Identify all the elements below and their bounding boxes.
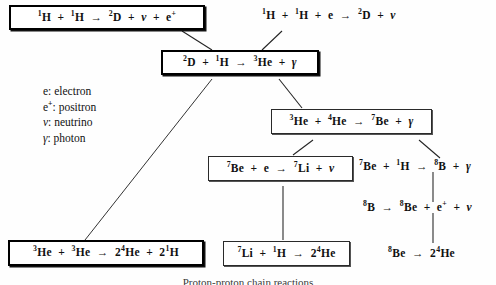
equation-text-pp1: 1H + 1H → 2D + ν + e+ [38, 12, 177, 24]
equation-b8-decay: 8B → 8Be + e+ + ν [363, 202, 472, 214]
figure-canvas: 1H + 1H → 2D + ν + e+ 1H + 1H + e → 2D +… [0, 0, 496, 285]
edge-pep-to-dp [262, 31, 282, 50]
equation-box-he3-he3: 3He + 3He → 24He + 21H [8, 240, 204, 266]
equation-be7-proton: 7Be + 1H → 8B + γ [359, 161, 471, 173]
equation-text-be7-proton: 7Be + 1H → 8B + γ [359, 161, 471, 173]
equation-box-deuterium-proton: 2D + 1H → 3He + γ [161, 50, 319, 75]
equation-box-pp1: 1H + 1H → 2D + ν + e+ [9, 5, 205, 30]
equation-text-pep: 1H + 1H + e → 2D + ν [262, 10, 396, 22]
equation-box-be7-electron: 7Be + e → 7Li + ν [208, 156, 353, 181]
equation-text-deuterium-proton: 2D + 1H → 3He + γ [183, 57, 297, 69]
edge-dp-to-he3he4 [279, 79, 302, 108]
equation-box-li7-proton: 7Li + 1H → 24He [223, 241, 350, 266]
equation-text-be7-electron: 7Be + e → 7Li + ν [227, 163, 335, 175]
equation-box-he3-he4: 3He + 4He → 7Be + γ [271, 109, 432, 134]
legend-item-photon: γ: photon [43, 131, 96, 147]
edge-he3he4-to-be7p [419, 140, 440, 158]
equation-text-he3-he3: 3He + 3He → 24He + 21H [33, 247, 179, 259]
equation-text-b8-decay: 8B → 8Be + e+ + ν [363, 202, 472, 214]
edge-dp-to-he3he3 [85, 79, 212, 240]
figure-caption: Proton-proton chain reactions [0, 276, 496, 285]
legend-item-positron: e+: positron [43, 100, 96, 116]
edge-pp1-to-dp [182, 31, 212, 50]
legend-item-electron: e: electron [43, 84, 96, 100]
equation-text-li7-proton: 7Li + 1H → 24He [237, 248, 335, 260]
edge-he3he4-to-be7e [293, 140, 313, 155]
equation-text-be8-decay: 8Be → 24He [388, 248, 455, 260]
equation-text-he3-he4: 3He + 4He → 7Be + γ [289, 116, 413, 128]
equation-be8-decay: 8Be → 24He [388, 248, 455, 260]
legend-item-neutrino: ν: neutrino [43, 115, 96, 131]
equation-pep: 1H + 1H + e → 2D + ν [262, 10, 396, 22]
legend: e: electron e+: positron ν: neutrino γ: … [43, 84, 96, 146]
